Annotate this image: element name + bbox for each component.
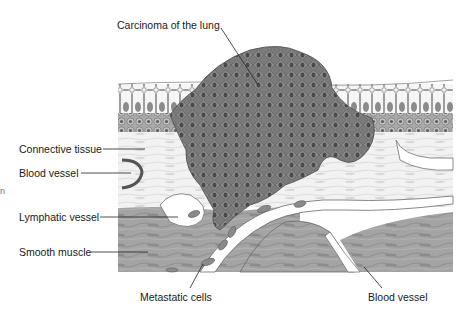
smooth-muscle-right: [340, 212, 453, 272]
clipped-edge-glyph: n: [0, 185, 5, 197]
label-lymphatic-vessel: Lymphatic vessel: [19, 211, 99, 223]
label-carcinoma: Carcinoma of the lung: [117, 19, 220, 31]
tissue-illustration: [0, 0, 475, 320]
label-blood-vessel-bottom: Blood vessel: [368, 291, 428, 303]
label-smooth-muscle: Smooth muscle: [19, 246, 91, 258]
label-connective-tissue: Connective tissue: [19, 143, 102, 155]
label-blood-vessel-left: Blood vessel: [19, 167, 79, 179]
lung-carcinoma-diagram: n Carcinoma of the lung Connective tissu…: [0, 0, 475, 320]
label-metastatic-cells: Metastatic cells: [140, 291, 212, 303]
